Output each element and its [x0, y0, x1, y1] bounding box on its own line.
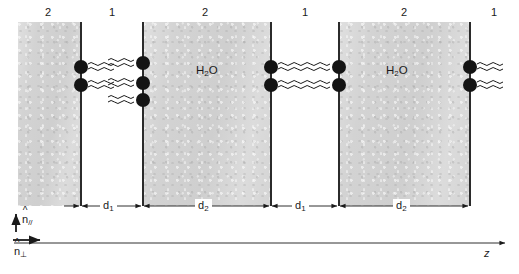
lipid-tail-icon: [477, 61, 503, 72]
lipid-head-icon: [136, 76, 150, 90]
region-label-1b: 1: [299, 6, 311, 18]
lipid-tail-icon: [108, 57, 134, 68]
bilayer-line-4: [338, 22, 340, 206]
lipid-head-icon: [264, 78, 278, 92]
dimension-label-d1-right: d1: [292, 199, 309, 211]
axis-label-n-perpendicular: ^n⊥: [14, 245, 27, 257]
bilayer-line-3: [270, 22, 272, 206]
bilayer-line-1: [80, 22, 82, 206]
lipid-tail-icon: [278, 79, 304, 90]
region-2-slab-right: [339, 22, 470, 206]
lipid-head-icon: [332, 78, 346, 92]
region-label-2a: 2: [42, 6, 54, 18]
lipid-head-icon: [463, 60, 477, 74]
circumflex-accent-icon: ^: [15, 238, 20, 248]
bilayer-line-2: [142, 22, 144, 206]
region-label-1a: 1: [106, 6, 118, 18]
lipid-tail-icon: [304, 61, 330, 72]
lipid-tail-icon: [108, 77, 134, 88]
slab-sheen: [339, 22, 470, 206]
dimension-label-d2-right: d2: [393, 199, 410, 211]
region-2-slab-left-partial: [18, 22, 81, 206]
lipid-tail-icon: [278, 61, 304, 72]
region-label-2b: 2: [199, 6, 211, 18]
region-label-1c: 1: [488, 6, 500, 18]
dimension-label-d2-left: d2: [195, 199, 212, 211]
slab-sheen: [143, 22, 271, 206]
water-label-left: H2O: [196, 64, 218, 76]
region-label-2c: 2: [398, 6, 410, 18]
lipid-tail-icon: [477, 79, 503, 90]
lipid-head-icon: [264, 60, 278, 74]
dimension-label-d1-left: d1: [100, 199, 117, 211]
region-2-slab-middle: [143, 22, 271, 206]
lipid-head-icon: [74, 78, 88, 92]
lipid-tail-icon: [108, 94, 134, 105]
axis-label-n-parallel: ^n//: [22, 213, 33, 225]
lamellar-bilayer-diagram: 2 1 2 1 2 1 H2O H2O d1 d: [0, 0, 519, 274]
lipid-head-icon: [463, 78, 477, 92]
lipid-head-icon: [136, 93, 150, 107]
lipid-head-icon: [332, 60, 346, 74]
bilayer-line-5: [469, 22, 471, 206]
lipid-head-icon: [74, 60, 88, 74]
lipid-head-icon: [136, 56, 150, 70]
axis-label-z: z: [484, 247, 490, 259]
circumflex-accent-icon: ^: [23, 206, 28, 216]
slab-sheen: [18, 22, 81, 206]
lipid-tail-icon: [304, 79, 330, 90]
water-label-right: H2O: [386, 64, 408, 76]
